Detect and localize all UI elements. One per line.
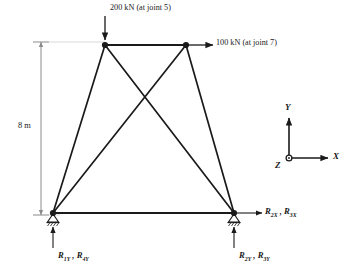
member-diagonal-b [53,45,186,213]
joint-top-left [102,42,108,48]
reaction-label-bottom-right-vertical: R2Y , R3Y [239,251,270,262]
member-right-leg [186,45,234,213]
reaction-subscript: 4Y [82,256,88,262]
reaction-label-bottom-left-vertical: R1Y , R4Y [58,251,89,262]
joint-top-right [183,42,189,48]
axis-label-y: Y [285,103,291,112]
diagram-vector-layer [0,0,354,274]
axis-label-z: Z [275,161,281,170]
reaction-subscript: 3X [290,212,297,218]
joint-bottom-left [50,210,56,216]
coordinate-axes [286,118,328,161]
reaction-subscript: 3Y [263,256,269,262]
reaction-label-bottom-right-horizontal: R2X , R3X [265,207,297,218]
load-label-100kn: 100 kN (at joint 7) [216,39,277,48]
dimension-line-8m [33,42,105,215]
truss-joints [50,42,237,216]
truss-members [53,45,234,213]
joint-bottom-right [231,210,237,216]
dimension-label-height: 8 m [18,122,31,131]
truss-diagram-canvas: 200 kN (at joint 5) 100 kN (at joint 7) … [0,0,354,274]
member-left-leg [53,45,105,213]
reaction-subscript: 2X [271,212,278,218]
axis-label-x: X [333,152,339,161]
member-diagonal-a [105,45,234,213]
load-label-200kn: 200 kN (at joint 5) [110,4,171,13]
